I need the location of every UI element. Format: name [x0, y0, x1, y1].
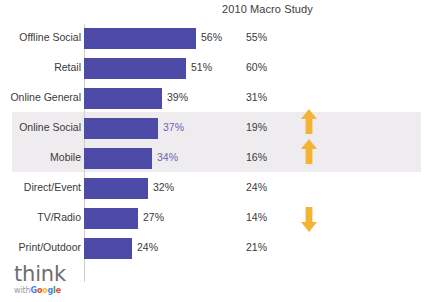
- bar: [84, 118, 158, 139]
- row-label: Direct/Event: [24, 181, 81, 193]
- logo-with-google: withGoogle: [14, 286, 88, 295]
- trend-up-arrow-icon: [300, 108, 318, 136]
- row-label: Retail: [54, 61, 81, 73]
- row-label: Print/Outdoor: [19, 241, 81, 253]
- logo-with-text: with: [14, 286, 31, 295]
- bar-fill: [84, 208, 138, 229]
- row-label: Mobile: [50, 151, 81, 163]
- bar-value-label: 24%: [137, 241, 158, 253]
- macro-study-value: 24%: [246, 181, 267, 193]
- macro-study-value: 14%: [246, 211, 267, 223]
- bar-fill: [84, 238, 132, 259]
- logo-google-wordmark: Google: [31, 286, 61, 295]
- bar-value-label: 39%: [167, 91, 188, 103]
- chart-row: Online Social37%19%: [0, 114, 433, 144]
- bar-fill: [84, 28, 196, 49]
- chart-rows: Offline Social56%55%Retail51%60%Online G…: [0, 24, 433, 264]
- trend-up-arrow-icon: [300, 138, 318, 166]
- macro-study-value: 19%: [246, 121, 267, 133]
- row-label: Offline Social: [19, 31, 81, 43]
- chart-row: Offline Social56%55%: [0, 24, 433, 54]
- row-label: TV/Radio: [37, 211, 81, 223]
- chart-row: Retail51%60%: [0, 54, 433, 84]
- logo-think-text: think: [14, 264, 88, 285]
- bar-value-label: 27%: [143, 211, 164, 223]
- macro-study-value: 16%: [246, 151, 267, 163]
- bar-fill: [84, 88, 162, 109]
- bar-fill: [84, 148, 152, 169]
- macro-study-value: 55%: [246, 31, 267, 43]
- bar: [84, 208, 138, 229]
- bar: [84, 178, 148, 199]
- macro-study-value: 21%: [246, 241, 267, 253]
- trend-down-arrow-icon: [300, 206, 318, 234]
- chart-container: 2010 Macro Study Offline Social56%55%Ret…: [0, 0, 433, 302]
- row-label: Online General: [10, 91, 81, 103]
- macro-study-value: 31%: [246, 91, 267, 103]
- chart-title: 2010 Macro Study: [222, 3, 313, 15]
- bar: [84, 28, 196, 49]
- bar-fill: [84, 118, 158, 139]
- bar-value-label: 34%: [157, 151, 178, 163]
- row-label: Online Social: [19, 121, 81, 133]
- think-with-google-logo: think withGoogle: [14, 264, 88, 295]
- bar-value-label: 32%: [153, 181, 174, 193]
- bar: [84, 58, 186, 79]
- bar-fill: [84, 178, 148, 199]
- bar-value-label: 37%: [163, 121, 184, 133]
- chart-row: TV/Radio27%14%: [0, 204, 433, 234]
- bar: [84, 238, 132, 259]
- bar: [84, 148, 152, 169]
- bar-value-label: 56%: [201, 31, 222, 43]
- chart-row: Direct/Event32%24%: [0, 174, 433, 204]
- chart-row: Print/Outdoor24%21%: [0, 234, 433, 264]
- chart-row: Mobile34%16%: [0, 144, 433, 174]
- bar-fill: [84, 58, 186, 79]
- bar: [84, 88, 162, 109]
- macro-study-value: 60%: [246, 61, 267, 73]
- chart-row: Online General39%31%: [0, 84, 433, 114]
- bar-value-label: 51%: [191, 61, 212, 73]
